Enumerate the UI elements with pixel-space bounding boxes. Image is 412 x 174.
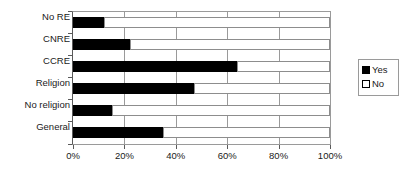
legend-item-yes: Yes	[362, 63, 396, 77]
x-axis-label-0%: 0%	[53, 150, 93, 161]
bar-series-group	[73, 12, 330, 144]
y-axis-label-1: CNRE	[2, 33, 70, 44]
bar-segment-no	[104, 17, 330, 28]
plot-area	[72, 11, 331, 145]
bar-row	[73, 39, 330, 50]
y-axis-label-5: General	[2, 121, 70, 132]
legend: Yes No	[358, 59, 399, 96]
legend-item-no: No	[362, 77, 396, 91]
bar-segment-no	[130, 39, 330, 50]
legend-swatch-no-icon	[362, 80, 370, 88]
x-axis-tick-0%	[73, 145, 74, 149]
bar-row	[73, 127, 330, 138]
bar-segment-yes	[73, 83, 194, 94]
bar-segment-no	[112, 105, 330, 116]
bar-row	[73, 17, 330, 28]
x-axis-tick-80%	[279, 145, 280, 149]
y-axis-label-0: No RE	[2, 11, 70, 22]
y-axis-labels: No RE CNRE CCRE Religion No religion Gen…	[0, 11, 70, 145]
bar-segment-yes	[73, 61, 237, 72]
y-axis-label-3: Religion	[2, 77, 70, 88]
bar-segment-yes	[73, 105, 112, 116]
bar-segment-no	[237, 61, 330, 72]
x-axis-label-100%: 100%	[310, 150, 350, 161]
x-axis-tick-20%	[124, 145, 125, 149]
x-axis-label-40%: 40%	[156, 150, 196, 161]
bar-row	[73, 61, 330, 72]
bar-row	[73, 83, 330, 94]
bar-segment-no	[194, 83, 330, 94]
x-axis-tick-60%	[227, 145, 228, 149]
legend-label-no: No	[372, 79, 384, 89]
y-axis-label-4: No religion	[2, 99, 70, 110]
bar-segment-yes	[73, 17, 104, 28]
bar-segment-yes	[73, 39, 130, 50]
legend-swatch-yes-icon	[362, 66, 370, 74]
x-axis-label-20%: 20%	[104, 150, 144, 161]
bar-segment-yes	[73, 127, 163, 138]
x-axis-tick-40%	[176, 145, 177, 149]
bar-row	[73, 105, 330, 116]
x-axis-tick-100%	[330, 145, 331, 149]
x-axis-label-80%: 80%	[259, 150, 299, 161]
legend-label-yes: Yes	[372, 65, 388, 75]
x-axis-label-60%: 60%	[207, 150, 247, 161]
bar-chart: No RE CNRE CCRE Religion No religion Gen…	[0, 0, 412, 174]
y-axis-label-2: CCRE	[2, 55, 70, 66]
bar-segment-no	[163, 127, 330, 138]
